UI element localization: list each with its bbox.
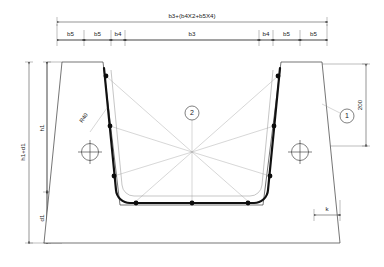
- seg-label-b4-2: b4: [263, 30, 270, 37]
- rebar-dot-bottom-left: [134, 201, 139, 206]
- top-overall-dimension: b3+(b4X2+b5X4): [57, 12, 327, 26]
- h1-label: h1: [38, 124, 45, 131]
- d1-label: d1: [38, 214, 45, 221]
- rebar-dot-right-low: [268, 174, 273, 179]
- leader-to-left-low: [114, 152, 192, 176]
- leader-to-left-top: [106, 76, 192, 152]
- leader-to-right-top: [192, 76, 278, 152]
- callout-2-group[interactable]: 2: [185, 106, 199, 120]
- rebar-dot-left-mid: [108, 124, 113, 129]
- rebar-dot-left-low: [112, 174, 117, 179]
- seg-label-b4-1: b4: [115, 30, 122, 37]
- leader-to-bottom-left: [134, 152, 192, 203]
- leader-to-bottom-right: [192, 152, 250, 203]
- rebar-dot-bottom-center: [190, 201, 195, 206]
- engineering-drawing-canvas: b3+(b4X2+b5X4) b5 b5 b4 b3 b4 b5 b5: [0, 0, 384, 267]
- rebar-dot-left-top: [104, 74, 109, 79]
- callout-2-label: 2: [190, 109, 194, 116]
- leader-to-right-mid: [192, 126, 274, 152]
- rebar-dot-right-top: [276, 74, 281, 79]
- leader-to-right-low: [192, 152, 270, 176]
- outer-vertical-label: h1+d1: [19, 143, 26, 161]
- right-dimension-label: 200: [356, 99, 363, 110]
- seg-label-b3: b3: [189, 30, 196, 37]
- seg-label-b5-4: b5: [310, 30, 317, 37]
- top-dimension-chain: b5 b5 b4 b3 b4 b5 b5: [57, 24, 327, 46]
- overall-dimension-label: b3+(b4X2+b5X4): [168, 12, 215, 19]
- leader-to-left-mid: [110, 126, 192, 152]
- seg-label-b5-1: b5: [67, 30, 74, 37]
- rebar-dot-right-mid: [272, 124, 277, 129]
- callout-1-label: 1: [345, 112, 349, 119]
- rebar-leader-lines: [106, 76, 278, 203]
- seg-label-b5-3: b5: [283, 30, 290, 37]
- seg-label-b5-2: b5: [94, 30, 101, 37]
- rebar-dot-bottom-right: [246, 201, 251, 206]
